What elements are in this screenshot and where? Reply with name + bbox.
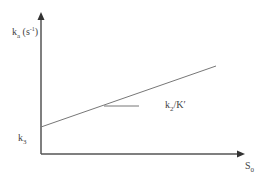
intercept-label: k3 <box>18 132 27 146</box>
x-axis-label: S0 <box>245 160 254 174</box>
y-axis-label: ka (s-1) <box>12 26 38 40</box>
x-axis-arrow-icon <box>237 151 245 158</box>
slope-label: k2/K′ <box>165 99 186 113</box>
linear-plot-line <box>41 66 216 127</box>
diagram-canvas <box>0 0 268 176</box>
y-axis-arrow-icon <box>38 12 45 20</box>
